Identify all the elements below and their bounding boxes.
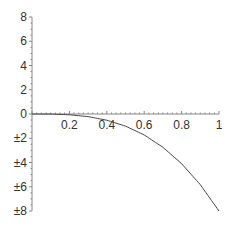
- y-tick-label: ±8: [14, 204, 28, 218]
- y-tick-label: ±2: [14, 131, 28, 145]
- x-tick-label: 1: [216, 118, 223, 132]
- line-chart: 86420±2±4±6±8 0.20.40.60.81: [0, 0, 238, 228]
- y-tick-label: ±6: [14, 180, 28, 194]
- x-tick-label: 0.2: [61, 118, 78, 132]
- y-tick-label: ±4: [14, 156, 28, 170]
- x-axis: [32, 111, 219, 114]
- y-tick-label: 6: [20, 34, 27, 48]
- y-tick-labels: 86420±2±4±6±8: [14, 10, 28, 218]
- x-tick-label: 0.6: [136, 118, 153, 132]
- y-tick-label: 0: [20, 107, 27, 121]
- y-tick-label: 2: [20, 83, 27, 97]
- data-curve: [32, 114, 219, 211]
- x-tick-labels: 0.20.40.60.81: [61, 118, 223, 132]
- y-tick-label: 8: [20, 10, 27, 24]
- y-tick-label: 4: [20, 59, 27, 73]
- x-tick-label: 0.8: [173, 118, 190, 132]
